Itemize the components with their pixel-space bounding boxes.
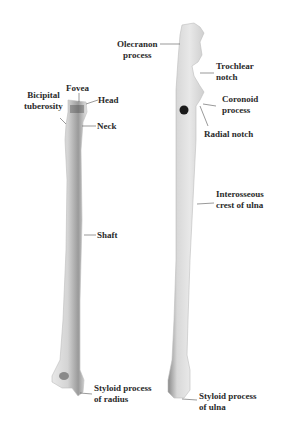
label-interosseous-crest: Interosseous crest of ulna [216, 189, 264, 211]
label-styloid-ulna-line2: of ulna [199, 402, 257, 413]
label-styloid-ulna: Styloid process of ulna [199, 391, 257, 413]
label-interosseous-line1: Interosseous [216, 189, 264, 200]
label-styloid-radius-line1: Styloid process [94, 383, 152, 394]
label-bicipital-tuberosity: Bicipital tuberosity [24, 90, 63, 112]
label-trochlear-notch: Trochlear notch [216, 61, 254, 83]
label-neck: Neck [97, 121, 117, 132]
label-styloid-radius-line2: of radius [94, 394, 152, 405]
label-styloid-radius: Styloid process of radius [94, 383, 152, 405]
label-coronoid-line2: process [222, 105, 258, 116]
label-coronoid-process: Coronoid process [222, 94, 258, 116]
label-styloid-ulna-line1: Styloid process [199, 391, 257, 402]
label-radial-notch: Radial notch [204, 129, 253, 140]
label-trochlear-line1: Trochlear [216, 61, 254, 72]
label-fovea: Fovea [66, 83, 89, 94]
label-bicipital-line1: Bicipital [24, 90, 63, 101]
label-head: Head [98, 95, 119, 106]
label-interosseous-line2: crest of ulna [216, 200, 264, 211]
label-shaft: Shaft [97, 230, 118, 241]
label-olecranon-process: Olecranon process [117, 39, 158, 61]
label-bicipital-line2: tuberosity [24, 101, 63, 112]
label-coronoid-line1: Coronoid [222, 94, 258, 105]
label-olecranon-line2: process [117, 50, 158, 61]
label-trochlear-line2: notch [216, 72, 254, 83]
ulna-bone [168, 23, 204, 398]
label-olecranon-line1: Olecranon [117, 39, 158, 50]
radius-bone [52, 100, 87, 396]
